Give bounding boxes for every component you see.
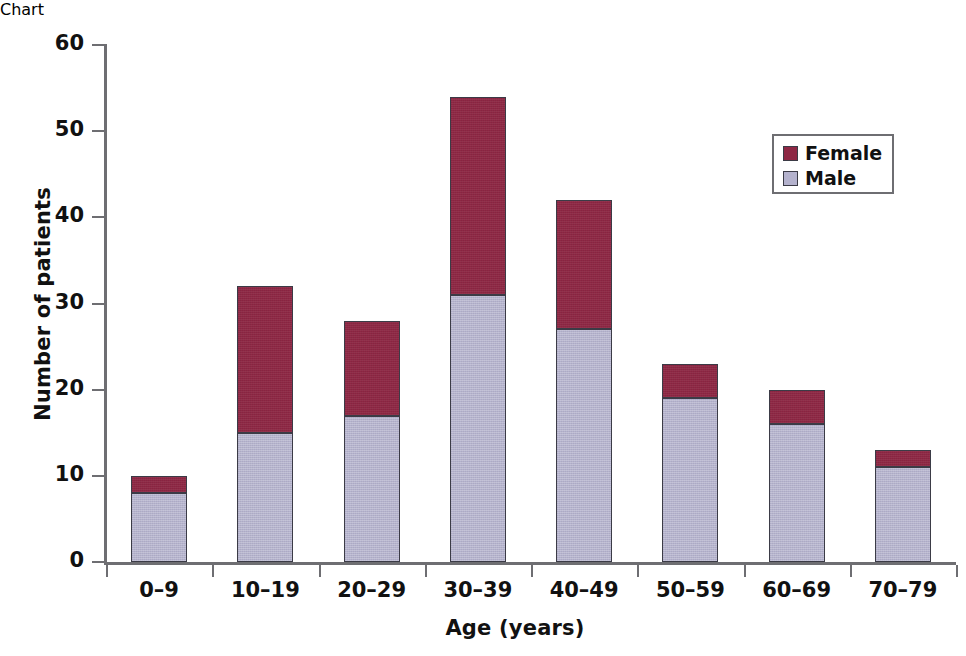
bar-segment-female (131, 476, 187, 493)
bar-segment-male (769, 424, 825, 562)
x-tick-2 (319, 565, 321, 577)
x-axis-title: Age (years) (100, 616, 930, 640)
y-tick-label-0: 0 (22, 548, 84, 572)
bar-segment-female (769, 390, 825, 424)
bar-segment-male (450, 295, 506, 562)
x-tick-label-4: 40–49 (524, 578, 644, 602)
x-tick-label-5: 50–59 (630, 578, 750, 602)
bar-10-19 (237, 286, 293, 562)
y-tick-50 (92, 130, 104, 132)
bar-segment-female (662, 364, 718, 398)
y-tick-label-40: 40 (22, 203, 84, 227)
y-tick-0 (92, 561, 104, 563)
x-tick-6 (744, 565, 746, 577)
legend-label-male: Male (805, 169, 856, 188)
legend-item-male: Male (783, 166, 892, 191)
x-tick-3 (425, 565, 427, 577)
x-axis-line (104, 562, 956, 565)
y-tick-label-10: 10 (22, 462, 84, 486)
x-tick-label-1: 10–19 (205, 578, 325, 602)
y-tick-40 (92, 216, 104, 218)
bar-segment-male (237, 433, 293, 562)
legend-label-female: Female (805, 144, 882, 163)
legend-item-female: Female (783, 141, 892, 166)
y-tick-10 (92, 475, 104, 477)
x-tick-1 (212, 565, 214, 577)
x-tick-label-6: 60–69 (737, 578, 857, 602)
bar-segment-female (875, 450, 931, 467)
bar-segment-female (450, 97, 506, 295)
y-tick-label-20: 20 (22, 376, 84, 400)
x-tick-label-7: 70–79 (843, 578, 963, 602)
y-tick-label-50: 50 (22, 117, 84, 141)
y-axis-line (104, 44, 107, 564)
bar-segment-male (875, 467, 931, 562)
bar-0-9 (131, 476, 187, 562)
y-tick-20 (92, 389, 104, 391)
x-tick-label-0: 0–9 (99, 578, 219, 602)
x-tick-5 (637, 565, 639, 577)
bar-segment-male (662, 398, 718, 562)
bar-segment-male (556, 329, 612, 562)
bar-segment-female (344, 321, 400, 416)
x-tick-label-2: 20–29 (312, 578, 432, 602)
legend-swatch-female (783, 146, 798, 161)
bar-segment-male (344, 416, 400, 562)
y-tick-60 (92, 44, 104, 46)
y-tick-label-60: 60 (22, 31, 84, 55)
x-tick-7 (850, 565, 852, 577)
bar-60-69 (769, 390, 825, 562)
stacked-bar-chart: Number of patients 0102030405060 0–910–1… (0, 0, 966, 656)
bar-30-39 (450, 97, 506, 562)
bar-70-79 (875, 450, 931, 562)
x-tick-0 (106, 565, 108, 577)
bar-20-29 (344, 321, 400, 562)
bar-segment-female (556, 200, 612, 329)
y-tick-label-30: 30 (22, 290, 84, 314)
legend-swatch-male (783, 171, 798, 186)
x-tick-label-3: 30–39 (418, 578, 538, 602)
bar-40-49 (556, 200, 612, 562)
bar-50-59 (662, 364, 718, 562)
x-tick-4 (531, 565, 533, 577)
y-tick-30 (92, 303, 104, 305)
legend: Female Male (772, 134, 894, 194)
bar-segment-male (131, 493, 187, 562)
bar-segment-female (237, 286, 293, 432)
x-tick-8 (956, 565, 958, 577)
